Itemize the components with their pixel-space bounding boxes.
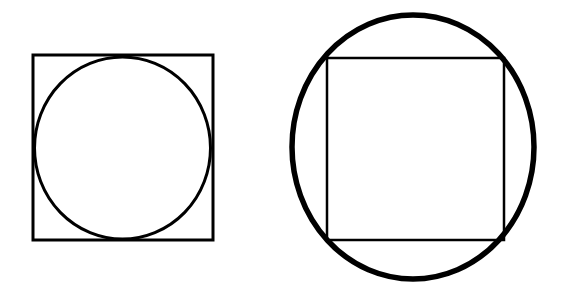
right-figure-group bbox=[292, 15, 534, 279]
figure-canvas bbox=[0, 0, 565, 293]
inscribed-square bbox=[327, 58, 504, 240]
left-figure-group bbox=[33, 55, 213, 240]
geometry-figure-svg bbox=[0, 0, 565, 293]
inscribed-circle bbox=[35, 57, 211, 239]
